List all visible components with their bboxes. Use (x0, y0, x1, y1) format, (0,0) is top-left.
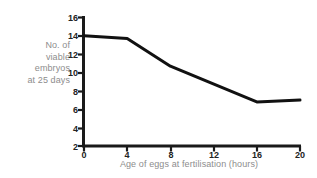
chart-plot-area (0, 0, 317, 178)
data-line-series-0 (84, 36, 300, 102)
chart-figure: No. of viable embryos at 25 days Age of … (0, 0, 317, 178)
x-axis (82, 146, 301, 152)
